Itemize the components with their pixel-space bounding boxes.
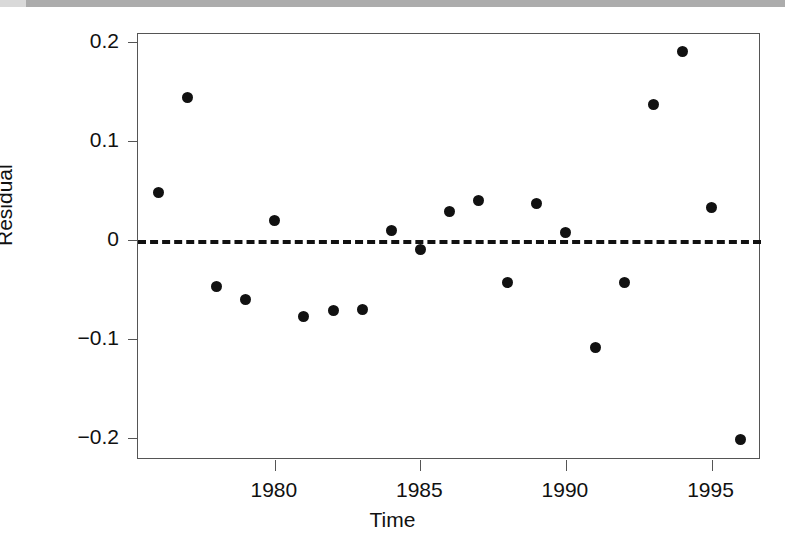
data-point: [677, 46, 688, 57]
data-point: [648, 99, 659, 110]
x-axis-tick-label: 1995: [687, 479, 734, 500]
y-axis-tick-label: −0.1: [0, 327, 119, 348]
data-point: [706, 202, 717, 213]
data-point: [590, 342, 601, 353]
y-axis-tick: [128, 141, 138, 142]
data-point: [444, 206, 455, 217]
zero-reference-line: [138, 240, 761, 244]
x-axis-tick-label: 1980: [250, 479, 297, 500]
y-axis-tick-label: −0.2: [0, 426, 119, 447]
data-point: [560, 227, 571, 238]
plot-panel: [137, 33, 760, 459]
residual-plot-figure: 0.20.10−0.1−0.2 1980198519901995 Residua…: [0, 0, 785, 550]
x-axis-title: Time: [0, 508, 785, 532]
data-point: [182, 92, 193, 103]
y-axis-tick: [128, 42, 138, 43]
data-point: [211, 281, 222, 292]
data-point: [298, 311, 309, 322]
x-axis-tick: [420, 460, 421, 471]
x-axis-tick-label: 1985: [396, 479, 443, 500]
data-point: [153, 187, 164, 198]
data-point: [240, 294, 251, 305]
x-axis-tick: [275, 460, 276, 471]
y-axis-tick: [128, 438, 138, 439]
data-point: [328, 305, 339, 316]
y-axis-title: Residual: [0, 164, 17, 246]
y-axis-tick: [128, 240, 138, 241]
data-point: [269, 215, 280, 226]
data-point: [531, 198, 542, 209]
x-axis-tick-label: 1990: [542, 479, 589, 500]
data-point: [415, 244, 426, 255]
x-axis-tick: [712, 460, 713, 471]
data-point: [502, 277, 513, 288]
data-point: [386, 225, 397, 236]
x-axis-tick: [566, 460, 567, 471]
data-point: [473, 195, 484, 206]
y-axis-tick-label: 0: [0, 228, 119, 249]
data-point: [735, 434, 746, 445]
data-point: [357, 304, 368, 315]
y-axis-tick-label: 0.1: [0, 129, 119, 150]
scan-band: [26, 0, 785, 7]
data-point: [619, 277, 630, 288]
y-axis-tick-label: 0.2: [0, 30, 119, 51]
y-axis-tick: [128, 339, 138, 340]
